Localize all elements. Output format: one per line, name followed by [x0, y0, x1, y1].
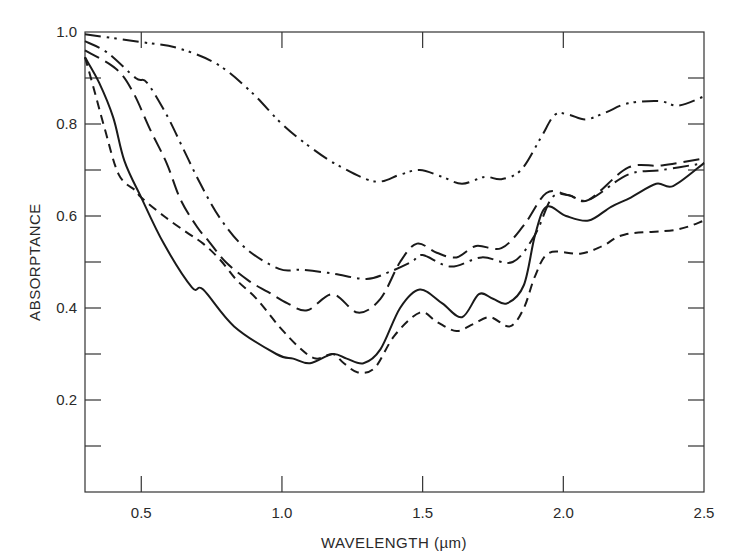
x-axis-title: WAVELENGTH (µm) — [321, 534, 467, 551]
curve-long-dash — [85, 50, 704, 312]
curve-dash-dot — [85, 41, 704, 279]
x-tick-label: 1.5 — [412, 504, 433, 521]
plot-border — [85, 32, 704, 492]
y-tick-label: 1.0 — [56, 23, 77, 40]
x-axis-ticks: 0.51.01.52.02.5 — [131, 32, 715, 521]
absorptance-chart: 0.51.01.52.02.5 0.20.40.60.81.0 WAVELENG… — [0, 0, 735, 556]
x-tick-label: 2.0 — [553, 504, 574, 521]
curve-short-dash — [85, 57, 704, 373]
curve-dash-dot-dot — [85, 34, 704, 184]
y-axis-ticks: 0.20.40.60.81.0 — [56, 23, 704, 446]
data-curves — [85, 34, 704, 373]
y-tick-label: 0.8 — [56, 115, 77, 132]
plot-frame — [85, 32, 704, 492]
y-tick-label: 0.6 — [56, 207, 77, 224]
y-tick-label: 0.2 — [56, 391, 77, 408]
y-tick-label: 0.4 — [56, 299, 77, 316]
x-tick-label: 0.5 — [131, 504, 152, 521]
x-tick-label: 1.0 — [272, 504, 293, 521]
curve-solid — [85, 57, 704, 363]
x-tick-label: 2.5 — [694, 504, 715, 521]
y-axis-title: ABSORPTANCE — [26, 203, 43, 321]
